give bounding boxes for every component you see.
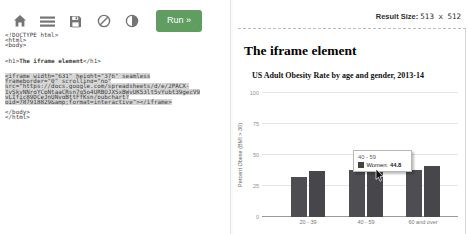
code-line: </html> [5,115,227,120]
bar-women-0[interactable] [309,171,325,217]
contrast-icon[interactable] [124,14,139,29]
bar-men-0[interactable] [291,177,307,217]
y-tick-label: 0 [239,214,259,220]
tooltip-series-swatch [358,162,364,168]
gridline-75 [262,123,458,124]
code-editor[interactable]: <!DOCTYPE html><html><body> <h1>The ifra… [5,33,227,234]
run-button[interactable]: Run » [156,10,202,32]
x-axis-label: 40 - 59 [336,219,396,225]
x-axis-label: 60 and over [393,219,453,225]
home-icon[interactable] [12,14,27,29]
mouse-cursor-icon [375,168,384,186]
toolbar: Run » [12,9,202,33]
tooltip-category: 40 - 59 [358,154,407,160]
y-tick-label: 100 [239,90,259,96]
chart-title: US Adult Obesity Rate by age and gender,… [252,71,424,80]
ban-icon[interactable] [96,14,111,29]
save-icon[interactable] [68,14,83,29]
y-tick-label: 75 [239,121,259,127]
result-pane: The iframe element US Adult Obesity Rate… [238,28,466,234]
bar-men-2[interactable] [406,170,422,217]
result-size-label: Result Size: [376,12,419,21]
chart-plot-area: Percent Obese (BMI > 30) 40 - 59 Women: … [262,93,458,217]
menu-icon[interactable] [40,14,55,29]
result-size: Result Size: 513 x 512 [376,12,461,21]
result-heading: The iframe element [244,43,465,59]
y-tick-label: 25 [239,183,259,189]
bar-men-1[interactable] [349,170,365,217]
x-axis-label: 20 - 39 [278,219,338,225]
tryit-editor-window: Run » Result Size: 513 x 512 <!DOCTYPE h… [0,0,468,234]
result-size-value: 513 x 512 [420,12,461,21]
tooltip-value: 44.8 [390,162,401,168]
bar-women-2[interactable] [424,166,440,217]
pane-divider[interactable] [230,0,233,234]
y-tick-label: 50 [239,152,259,158]
gridline-100 [262,92,458,93]
